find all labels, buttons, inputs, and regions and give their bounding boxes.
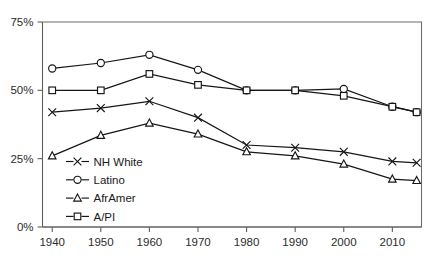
y-tick-label: 25% <box>10 153 33 165</box>
y-tick-label: 0% <box>17 221 34 233</box>
marker-square <box>292 87 299 94</box>
x-tick-label: 2000 <box>331 236 357 248</box>
chart-legend: NH WhiteLatinoAfrAmerA/PI <box>66 156 143 223</box>
series-a-pi <box>49 71 420 116</box>
marker-square <box>74 213 81 220</box>
legend-label: AfrAmer <box>94 192 136 204</box>
y-tick-label: 50% <box>10 84 33 96</box>
marker-square <box>49 87 56 94</box>
marker-square <box>243 87 250 94</box>
marker-square <box>98 87 105 94</box>
legend-label: Latino <box>94 174 125 186</box>
x-axis-ticks: 19401950196019701980199020002010 <box>39 227 405 248</box>
marker-triangle <box>74 194 82 201</box>
series-line <box>52 101 416 163</box>
x-tick-label: 1970 <box>185 236 211 248</box>
x-tick-label: 2010 <box>380 236 406 248</box>
legend-item-latino: Latino <box>66 174 125 186</box>
x-tick-label: 1950 <box>88 236 114 248</box>
line-chart: 0%25%50%75% 1940195019601970198019902000… <box>0 0 435 260</box>
series-line <box>52 55 416 112</box>
marker-circle <box>49 65 56 72</box>
marker-circle <box>340 85 347 92</box>
chart-container: 0%25%50%75% 1940195019601970198019902000… <box>0 0 435 260</box>
legend-item-nh-white: NH White <box>66 156 143 168</box>
marker-circle <box>74 176 81 183</box>
y-tick-label: 75% <box>10 16 33 28</box>
marker-circle <box>194 66 201 73</box>
legend-item-aframer: AfrAmer <box>66 192 136 204</box>
series-latino <box>49 51 421 116</box>
x-tick-label: 1990 <box>282 236 308 248</box>
marker-triangle <box>146 119 154 126</box>
marker-square <box>195 82 202 89</box>
marker-square <box>146 71 153 78</box>
x-tick-label: 1940 <box>39 236 65 248</box>
series-line <box>52 123 416 180</box>
marker-circle <box>97 59 104 66</box>
marker-square <box>413 109 420 116</box>
legend-item-a-pi: A/PI <box>66 211 115 223</box>
marker-square <box>340 93 347 100</box>
marker-circle <box>146 51 153 58</box>
x-tick-label: 1960 <box>137 236 163 248</box>
y-axis-ticks: 0%25%50%75% <box>10 16 42 233</box>
marker-x <box>194 114 202 122</box>
x-tick-label: 1980 <box>234 236 260 248</box>
legend-label: NH White <box>94 156 143 168</box>
marker-x <box>74 158 82 166</box>
marker-square <box>389 103 396 110</box>
series-line <box>52 74 416 112</box>
legend-label: A/PI <box>94 211 116 223</box>
